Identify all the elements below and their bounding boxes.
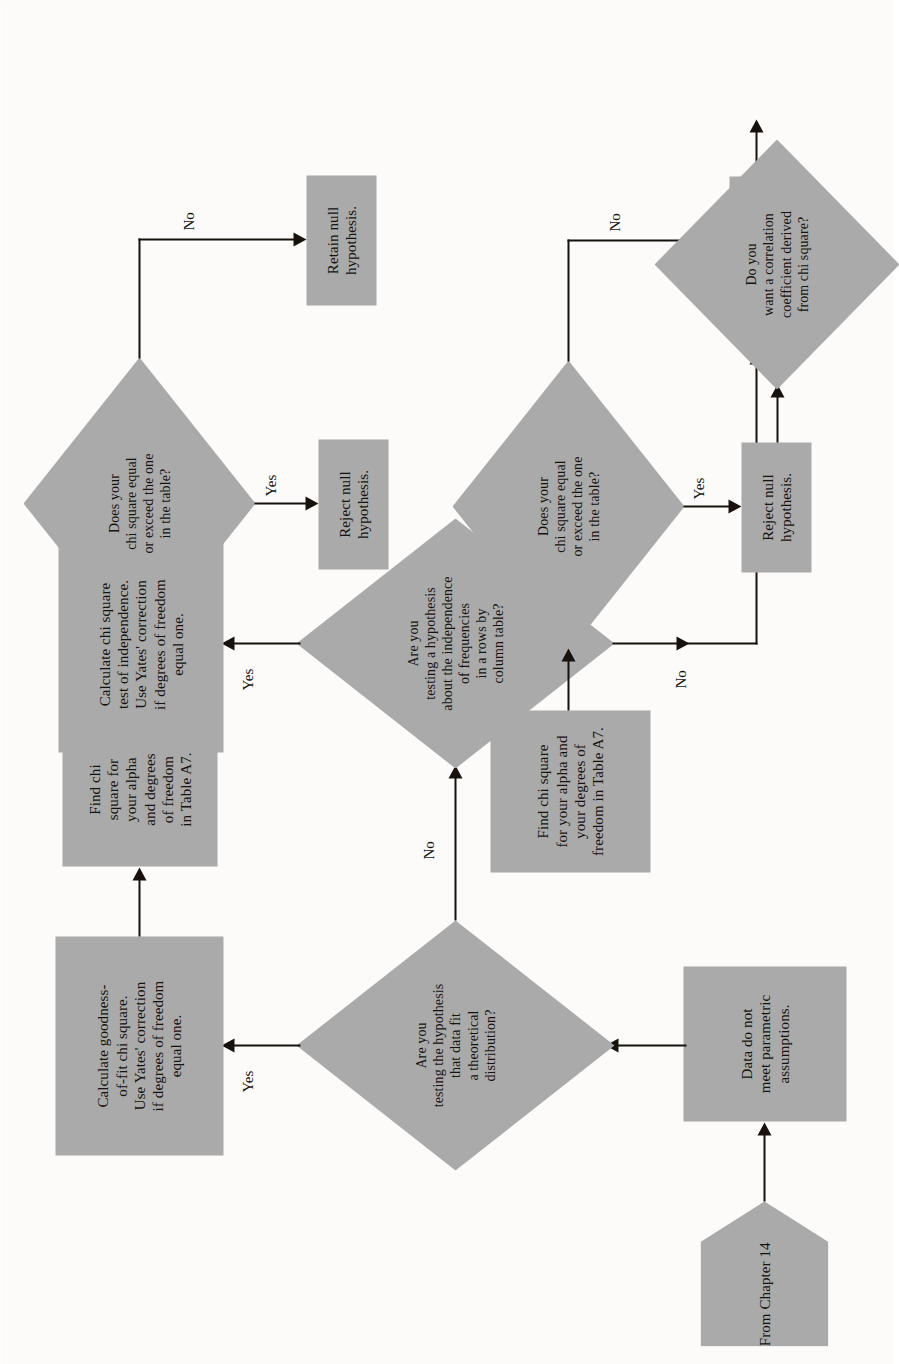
arrowhead-independence-no-mid bbox=[749, 351, 763, 364]
node-data-not-parametric-label: Data do not meet parametric assumptions. bbox=[737, 994, 792, 1093]
edge-label-exceed1-yes: Yes bbox=[262, 474, 279, 496]
node-calculate-goodness-of-fit: Calculate goodness- of-fit chi square. U… bbox=[55, 936, 223, 1155]
edge-independence-no-horz bbox=[755, 124, 757, 644]
node-question-goodness-of-fit: Are you testing the hypothesis that data… bbox=[296, 920, 614, 1170]
arrowhead-independence-no-end bbox=[749, 119, 763, 132]
edge-exceed1-yes-vert bbox=[254, 502, 312, 504]
node-retain-null-1: Retain null hypothesis. bbox=[306, 175, 376, 305]
node-find-chi-square-1-label: Find chi square for your alpha and degre… bbox=[85, 752, 195, 826]
node-data-not-parametric: Data do not meet parametric assumptions. bbox=[683, 966, 846, 1121]
edge-goodness-no-horz bbox=[454, 770, 456, 920]
arrowhead-independence-no bbox=[676, 636, 689, 650]
arrowhead-exceed1-no bbox=[293, 232, 306, 246]
edge-label-exceed1-no: No bbox=[180, 212, 197, 230]
edge-exceed1-no-vert bbox=[138, 238, 298, 240]
node-calculate-goodness-of-fit-label: Calculate goodness- of-fit chi square. U… bbox=[93, 980, 184, 1111]
edge-goodness-yes bbox=[228, 1044, 300, 1046]
edge-label-independence-no: No bbox=[672, 670, 689, 688]
arrowhead-calcgoodness-to-findchi1 bbox=[132, 867, 146, 880]
node-retain-null-1-label: Retain null hypothesis. bbox=[323, 205, 360, 274]
edge-independence-yes bbox=[228, 642, 300, 644]
edge-label-goodness-no: No bbox=[420, 841, 437, 859]
node-question-goodness-of-fit-label: Are you testing the hypothesis that data… bbox=[412, 935, 497, 1155]
edge-calcgoodness-to-findchi1 bbox=[138, 878, 140, 936]
node-question-independence: Are you testing a hypothesis about the i… bbox=[296, 518, 614, 768]
edge-label-independence-yes: Yes bbox=[239, 668, 256, 690]
arrowhead-exceed1-yes bbox=[305, 496, 318, 510]
edge-exceed1-no-horz bbox=[138, 238, 140, 358]
node-question-independence-label: Are you testing a hypothesis about the i… bbox=[404, 533, 506, 753]
node-from-chapter-14: From Chapter 14 bbox=[700, 1201, 828, 1346]
edge-data-to-goodness-question bbox=[612, 1044, 686, 1046]
node-from-chapter-14-label: From Chapter 14 bbox=[755, 1242, 773, 1346]
node-question-exceed-table-1-label: Does your chi square equal or exceed the… bbox=[105, 375, 173, 632]
arrowhead-from-chapter-to-data bbox=[757, 1122, 771, 1135]
edge-label-goodness-yes: Yes bbox=[239, 1070, 256, 1092]
edge-from-chapter-to-data bbox=[763, 1133, 765, 1201]
